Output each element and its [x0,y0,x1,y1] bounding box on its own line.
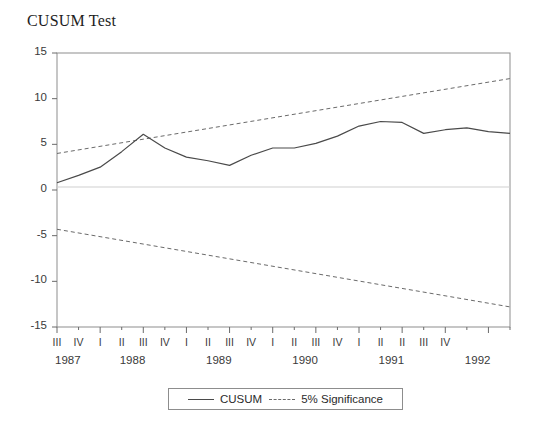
x-quarter-label-8: III [225,336,234,348]
x-quarter-label-18: IV [440,336,450,348]
y-axis-ticks [52,53,57,327]
x-quarter-label-6: I [185,336,188,348]
y-tick-label-2: 5 [13,136,47,148]
x-quarter-label-15: II [378,336,384,348]
x-quarter-label-17: III [419,336,428,348]
y-tick-label-4: -5 [13,228,47,240]
legend-swatch-dashed-icon [269,399,295,400]
cusum-test-chart: CUSUM Test 151050-5-10-15 IIIIVIIIIIIIVI… [0,0,535,430]
legend-entry-significance: 5% Significance [269,393,383,405]
x-quarter-label-7: II [205,336,211,348]
x-year-label-1: 1988 [120,354,146,366]
x-quarter-label-0: III [53,336,62,348]
x-quarter-label-12: III [311,336,320,348]
legend-label-cusum: CUSUM [220,393,262,405]
x-year-label-5: 1992 [465,354,491,366]
x-quarter-label-1: IV [74,336,84,348]
legend-entry-cusum: CUSUM [188,393,262,405]
y-tick-label-0: 15 [13,45,47,57]
x-quarter-label-2: I [99,336,102,348]
y-tick-label-3: 0 [13,182,47,194]
x-year-label-4: 1991 [379,354,405,366]
x-quarter-label-16: II [399,336,405,348]
x-quarter-label-9: IV [246,336,256,348]
x-year-label-3: 1990 [292,354,318,366]
y-tick-label-5: -10 [13,273,47,285]
legend-label-significance: 5% Significance [301,393,383,405]
x-quarter-label-13: IV [332,336,342,348]
x-quarter-label-4: III [139,336,148,348]
x-quarter-label-3: II [119,336,125,348]
x-quarter-label-5: IV [160,336,170,348]
x-year-label-2: 1989 [206,354,232,366]
y-tick-label-1: 10 [13,91,47,103]
x-quarter-label-11: II [291,336,297,348]
x-quarter-label-14: I [358,336,361,348]
x-axis-ticks [57,327,510,333]
y-tick-label-6: -15 [13,319,47,331]
chart-legend: CUSUM 5% Significance [168,388,403,410]
legend-swatch-solid-icon [188,399,214,400]
plot-frame [57,53,510,327]
x-quarter-label-10: I [271,336,274,348]
x-year-label-0: 1987 [55,354,81,366]
